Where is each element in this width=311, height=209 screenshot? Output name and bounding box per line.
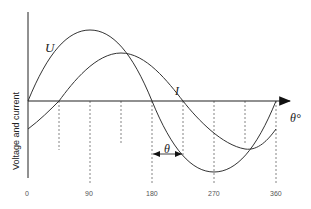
- phase-diagram: U I θ° θ Voltage and current 0 90 180 27…: [0, 0, 311, 209]
- tick-360: 360: [270, 190, 282, 197]
- tick-270: 270: [208, 190, 220, 197]
- u-label: U: [45, 40, 56, 55]
- tick-180: 180: [146, 190, 158, 197]
- y-axis-label: Voltage and current: [11, 91, 21, 170]
- theta-lag-label: θ: [164, 142, 170, 156]
- tick-0: 0: [25, 190, 29, 197]
- tick-90: 90: [85, 190, 93, 197]
- theta-axis-label: θ°: [290, 111, 301, 125]
